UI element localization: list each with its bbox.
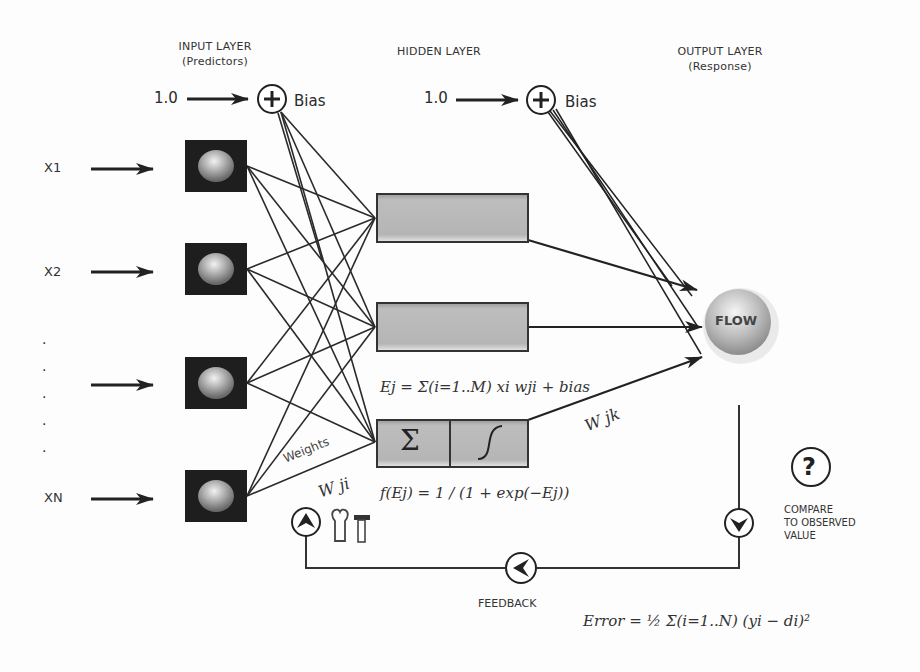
hidden-layer-header: HIDDEN LAYER bbox=[384, 44, 494, 59]
question-mark: ? bbox=[802, 453, 816, 481]
input-hidden-weights bbox=[247, 112, 375, 496]
arrow-left-circle-icon bbox=[506, 553, 536, 583]
input-arrows bbox=[91, 169, 153, 499]
network-connections bbox=[0, 0, 920, 672]
input-label-xn: XN bbox=[44, 490, 63, 505]
arrow-down-circle-icon bbox=[725, 509, 753, 537]
input-label-x2: X2 bbox=[44, 264, 61, 279]
arrow-up-circle-icon bbox=[292, 508, 320, 536]
feedback-label: FEEDBACK bbox=[478, 597, 536, 610]
output-label: FLOW bbox=[715, 313, 757, 328]
bias-input-value: 1.0 bbox=[154, 89, 178, 107]
output-layer-subtitle: (Response) bbox=[660, 59, 780, 74]
neural-network-diagram: INPUT LAYER (Predictors) HIDDEN LAYER OU… bbox=[0, 0, 920, 672]
activation-equation: f(Ej) = 1 / (1 + exp(−Ej)) bbox=[380, 484, 569, 502]
plus-circle-icon bbox=[527, 86, 555, 114]
ellipsis-dots: ····· bbox=[42, 330, 46, 465]
input-label-x1: X1 bbox=[44, 160, 61, 175]
sum-symbol: Σ bbox=[400, 424, 420, 457]
bias-label: Bias bbox=[565, 93, 596, 111]
hammer-icon bbox=[354, 515, 370, 542]
hidden-layer-title: HIDDEN LAYER bbox=[384, 44, 494, 59]
output-layer-title: OUTPUT LAYER bbox=[660, 44, 780, 59]
error-equation: Error = ½ Σ(i=1..N) (yi − di)² bbox=[583, 612, 810, 630]
wrench-icon bbox=[332, 510, 347, 541]
input-nodes bbox=[185, 140, 247, 522]
input-layer-title: INPUT LAYER bbox=[160, 39, 270, 54]
input-layer-header: INPUT LAYER (Predictors) bbox=[160, 39, 270, 69]
output-layer-header: OUTPUT LAYER (Response) bbox=[660, 44, 780, 74]
bias-label: Bias bbox=[294, 92, 325, 110]
input-layer-subtitle: (Predictors) bbox=[160, 54, 270, 69]
compare-label: COMPARE TO OBSERVED VALUE bbox=[784, 503, 856, 542]
plus-circle-icon bbox=[258, 85, 286, 113]
sum-equation: Ej = Σ(i=1..M) xi wji + bias bbox=[380, 378, 590, 396]
bias-input-value: 1.0 bbox=[424, 89, 448, 107]
